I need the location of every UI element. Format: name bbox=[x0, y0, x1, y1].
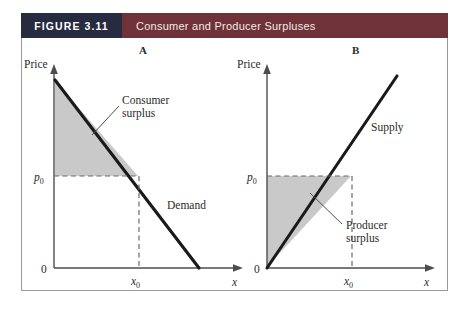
panel-a: Price x A 0 p0 x0 Consumer surplus Deman… bbox=[24, 44, 243, 289]
panel-a-letter: A bbox=[139, 44, 147, 56]
figure-body: Price x A 0 p0 x0 Consumer surplus Deman… bbox=[21, 38, 448, 291]
panel-b-x-axis-arrow bbox=[425, 264, 435, 272]
panel-b-y-axis-label: Price bbox=[237, 58, 261, 70]
panel-a-y-axis-arrow bbox=[50, 64, 58, 74]
panel-b-x-axis-label: x bbox=[423, 276, 430, 288]
producer-surplus-region bbox=[267, 176, 351, 267]
panel-a-origin-label: 0 bbox=[41, 263, 47, 275]
panel-b-quantity-tick-sub: 0 bbox=[349, 281, 353, 289]
figure-number-box: FIGURE 3.11 bbox=[21, 13, 122, 38]
panel-b-price-tick-sub: 0 bbox=[253, 177, 257, 186]
figure-container: FIGURE 3.11 Consumer and Producer Surplu… bbox=[0, 0, 469, 309]
panel-b-origin-label: 0 bbox=[254, 263, 260, 275]
panel-b: Price x B 0 p0 x0 Producer surplus Suppl… bbox=[237, 44, 435, 289]
consumer-surplus-label-line2: surplus bbox=[122, 107, 156, 120]
panel-a-price-tick-label: p0 bbox=[33, 171, 44, 186]
producer-surplus-label-line2: surplus bbox=[346, 232, 380, 245]
panel-a-y-axis-label: Price bbox=[24, 58, 48, 70]
panel-b-price-tick-label: p0 bbox=[246, 171, 257, 186]
panel-a-quantity-tick-sub: 0 bbox=[136, 281, 140, 289]
supply-curve-label: Supply bbox=[371, 121, 404, 134]
figure-title-box: Consumer and Producer Surpluses bbox=[122, 13, 448, 38]
figure-header: FIGURE 3.11 Consumer and Producer Surplu… bbox=[21, 13, 448, 38]
demand-curve-label: Demand bbox=[167, 199, 206, 211]
figure-number-label: FIGURE 3.11 bbox=[34, 20, 109, 32]
panels-diagram: Price x A 0 p0 x0 Consumer surplus Deman… bbox=[22, 38, 447, 289]
panel-b-letter: B bbox=[352, 44, 360, 56]
panel-a-x-axis-arrow bbox=[233, 264, 243, 272]
panel-a-x-axis-label: x bbox=[231, 276, 238, 288]
panel-b-y-axis-arrow bbox=[263, 64, 271, 74]
panel-a-quantity-tick-label: x0 bbox=[130, 275, 140, 289]
producer-surplus-label-line1: Producer bbox=[346, 219, 388, 231]
panel-b-quantity-tick-label: x0 bbox=[343, 275, 353, 289]
consumer-surplus-leader-line bbox=[92, 106, 119, 135]
figure-title-label: Consumer and Producer Surpluses bbox=[136, 20, 316, 32]
consumer-surplus-label-line1: Consumer bbox=[122, 94, 169, 106]
panel-a-price-tick-sub: 0 bbox=[40, 177, 44, 186]
